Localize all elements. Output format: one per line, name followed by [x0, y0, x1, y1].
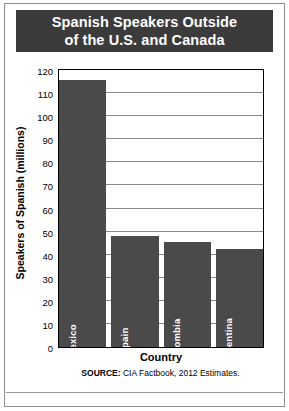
bar-label: Mexico [72, 324, 83, 348]
bar: Spain [111, 236, 158, 347]
y-axis-tick-label: 50 [16, 227, 58, 238]
chart-title-line-2: of the U.S. and Canada [64, 31, 224, 49]
source-text: CIA Factbook, 2012 Estimates. [121, 368, 240, 378]
y-axis-tick-label: 80 [16, 158, 58, 169]
bar-series: MexicoSpainColombiaArgentina [59, 70, 263, 347]
y-axis-tick-label: 100 [16, 112, 58, 123]
y-axis-tick-label: 60 [16, 204, 58, 215]
bar-label-text: Argentina [223, 318, 234, 348]
chart-figure: Spanish Speakers Outside of the U.S. and… [0, 0, 289, 411]
source-prefix: SOURCE: [81, 368, 120, 378]
y-axis-tick-label: 0 [16, 343, 58, 354]
x-axis-title: Country [58, 351, 264, 363]
y-axis-tick-label: 10 [16, 319, 58, 330]
bar: Mexico [59, 80, 106, 347]
bar-label: Argentina [228, 318, 239, 348]
bar: Colombia [164, 242, 211, 347]
y-axis-tick-label: 30 [16, 273, 58, 284]
y-axis-tick-label: 40 [16, 250, 58, 261]
bar-label: Spain [124, 328, 135, 348]
y-axis-tick-label: 20 [16, 296, 58, 307]
bottom-rule [6, 392, 283, 393]
bar-label-text: Colombia [171, 319, 182, 348]
chart-area: Speakers of Spanish (millions) 010203040… [16, 55, 273, 385]
y-axis-tick-label: 70 [16, 181, 58, 192]
y-axis-tick-label: 110 [16, 89, 58, 100]
y-axis-tick-label: 120 [16, 66, 58, 77]
source-note: SOURCE: CIA Factbook, 2012 Estimates. [32, 368, 289, 378]
y-axis-tick-label: 90 [16, 135, 58, 146]
bar-label-text: Spain [118, 328, 129, 348]
bar-label-text: Mexico [66, 324, 77, 348]
chart-title-banner: Spanish Speakers Outside of the U.S. and… [16, 10, 273, 52]
plot-area: MexicoSpainColombiaArgentina [58, 69, 264, 348]
bar: Argentina [216, 249, 263, 347]
bar-label: Colombia [176, 319, 187, 348]
chart-title-line-1: Spanish Speakers Outside [52, 13, 237, 31]
